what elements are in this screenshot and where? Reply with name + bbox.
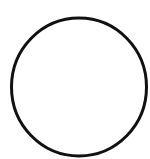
circle-outline-icon: [0, 0, 150, 159]
canvas: [0, 0, 150, 159]
circle-shape: [12, 18, 147, 156]
